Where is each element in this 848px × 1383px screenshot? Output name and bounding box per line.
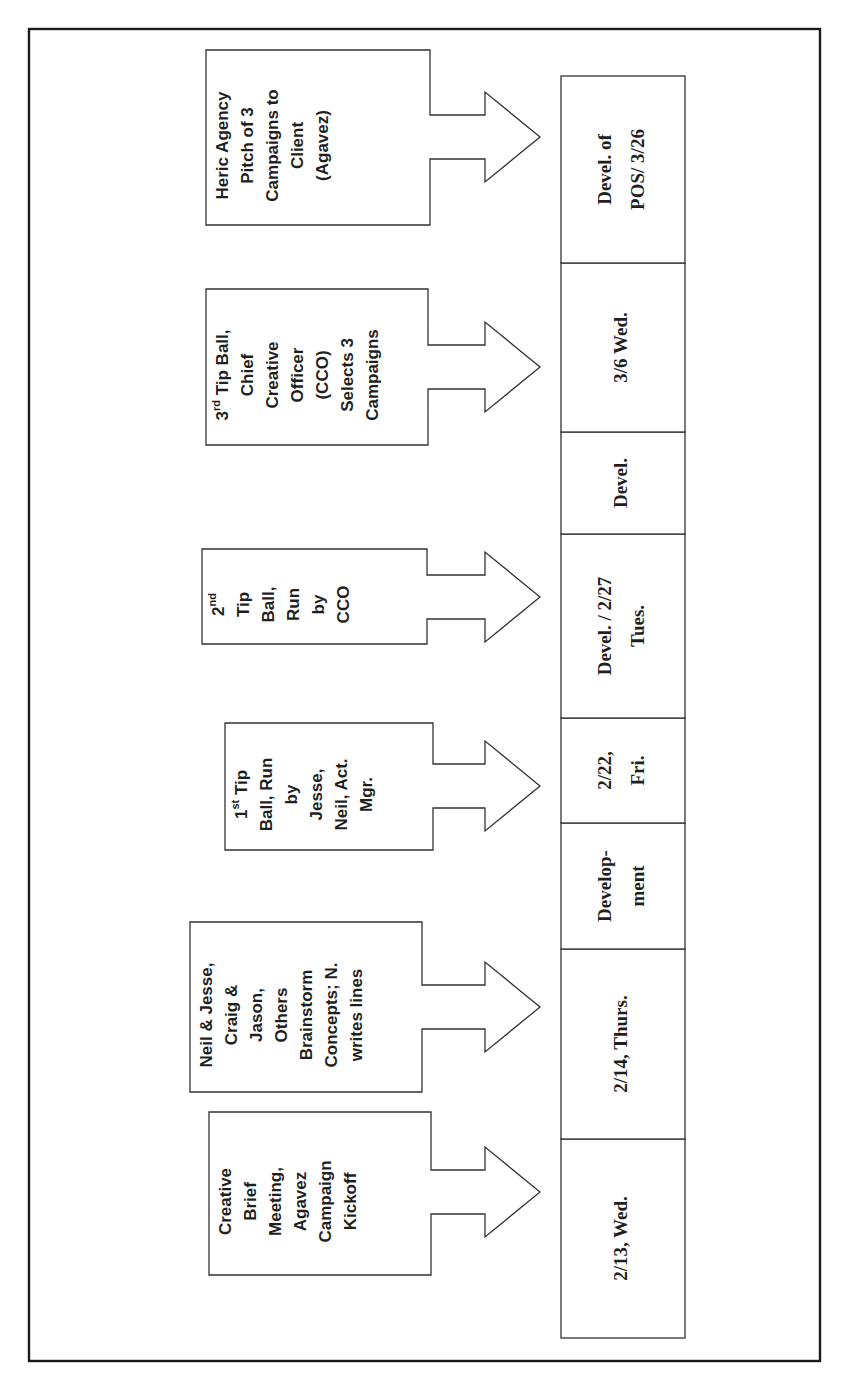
callout-text-line: Campaigns to <box>263 89 282 201</box>
callout-text-line: (Agavez) <box>313 110 332 181</box>
timeline-cell-text-line: Tues. <box>627 605 648 647</box>
callout-text-line: Tip <box>234 592 253 617</box>
callout-text-line: (CCO) <box>313 350 332 399</box>
callout-text-line: Jason, <box>247 988 266 1042</box>
callout-text-line: Ball, Run <box>257 758 276 832</box>
callout-text-line: by <box>309 594 328 614</box>
callout-text-line: by <box>282 784 301 804</box>
callout-text-line: Pitch of 3 <box>238 107 257 184</box>
callout-text-line: Brief <box>241 1182 260 1221</box>
callout-text-line: Client <box>288 122 307 170</box>
callout-text-line: Neil & Jesse, <box>197 963 216 1068</box>
callout-text-line: Mgr. <box>357 777 376 812</box>
timeline-cell: 3/6 Wed. <box>561 263 685 432</box>
timeline-cell-box <box>561 76 685 263</box>
timeline-cell-text-line: Devel. of <box>594 133 615 204</box>
callout-text-line: Heric Agency <box>213 91 232 200</box>
callout-text-line: Run <box>284 588 303 621</box>
timeline-cell-text-line: Fri. <box>627 755 648 785</box>
callout-text-line: Chief <box>238 353 257 396</box>
timeline-cell-text-line: POS/ 3/26 <box>627 129 648 210</box>
callout-text-line: Craig & <box>222 985 241 1045</box>
timeline-cell: Devel. <box>561 432 685 534</box>
timeline-cell-box <box>561 823 685 949</box>
callout-text-line: Creative <box>216 1168 235 1235</box>
timeline-cell: Develop-ment <box>561 823 685 949</box>
callout-text-line: Ball, <box>259 587 278 623</box>
callout-text-line: Agavez <box>291 1172 310 1232</box>
timeline-cell-text-line: Devel. <box>610 458 631 508</box>
callout-text-line: Campaigns <box>363 329 382 421</box>
callout-text-line: Selects 3 <box>338 338 357 412</box>
timeline-cell: 2/13, Wed. <box>561 1139 685 1338</box>
callout-text-line: 1st Tip <box>229 770 252 819</box>
callout-group: CreativeBriefMeeting,AgavezCampaignKicko… <box>190 50 540 1275</box>
timeline-strip: 2/13, Wed.2/14, Thurs.Develop-ment2/22,F… <box>561 76 685 1338</box>
timeline-diagram: CreativeBriefMeeting,AgavezCampaignKicko… <box>0 0 848 1383</box>
timeline-cell: Devel. / 2/27Tues. <box>561 534 685 718</box>
callout-tip-ball-3: 3rd Tip Ball,ChiefCreativeOfficer(CCO)Se… <box>206 289 540 445</box>
callout-kickoff: CreativeBriefMeeting,AgavezCampaignKicko… <box>209 1112 540 1275</box>
callout-text-line: Kickoff <box>341 1172 360 1230</box>
timeline-cell-box <box>561 718 685 823</box>
callout-brainstorm: Neil & Jesse,Craig &Jason,OthersBrainsto… <box>190 922 540 1092</box>
callout-text-line: writes lines <box>347 969 366 1063</box>
callout-text-line: Creative <box>263 341 282 408</box>
timeline-cell-text-line: 2/22, <box>594 751 615 790</box>
callout-tip-ball-1: 1st TipBall, RunbyJesse,Neil, Act.Mgr. <box>225 723 540 850</box>
callout-text-line: Brainstorm <box>297 970 316 1061</box>
callout-client-pitch: Heric AgencyPitch of 3Campaigns toClient… <box>206 50 540 225</box>
timeline-cell: 2/22,Fri. <box>561 718 685 823</box>
timeline-cell-text-line: Develop- <box>594 850 615 922</box>
callout-text-line: Neil, Act. <box>332 758 351 830</box>
timeline-cell-text-line: 3/6 Wed. <box>610 312 631 382</box>
callout-text-line: Campaign <box>316 1160 335 1242</box>
callout-text-line: Jesse, <box>307 769 326 821</box>
timeline-cell: 2/14, Thurs. <box>561 949 685 1139</box>
timeline-cell-box <box>561 534 685 718</box>
timeline-cell-text-line: 2/14, Thurs. <box>610 995 631 1092</box>
timeline-cell-text-line: 2/13, Wed. <box>610 1196 631 1281</box>
timeline-cell-text-line: ment <box>627 865 648 907</box>
timeline-cell-text-line: Devel. / 2/27 <box>594 576 615 675</box>
callout-tip-ball-2: 2ndTipBall,RunbyCCO <box>202 549 540 644</box>
callout-text-line: Officer <box>288 347 307 402</box>
callout-text-line: Meeting, <box>266 1167 285 1236</box>
callout-text-line: CCO <box>334 586 353 624</box>
callout-text-line: Others <box>272 988 291 1043</box>
timeline-cell: Devel. ofPOS/ 3/26 <box>561 76 685 263</box>
callout-text-line: Concepts; N. <box>322 963 341 1068</box>
